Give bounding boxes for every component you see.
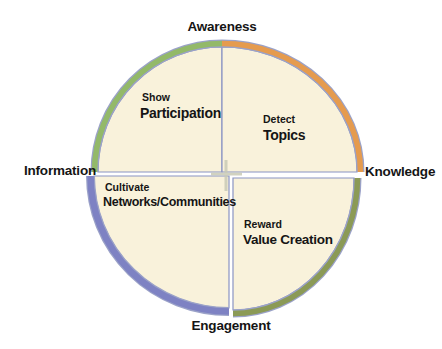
quadrant-top-right-label: Topics: [263, 128, 305, 143]
quadrant-cycle-diagram: Awareness Knowledge Engagement Informati…: [0, 0, 442, 349]
axis-label-knowledge: Knowledge: [365, 165, 435, 180]
quadrant-top-right-wedge: [222, 47, 357, 172]
quadrant-bottom-left-label: Networks/Communities: [103, 196, 236, 210]
quadrant-top-left-label: Participation: [140, 106, 221, 121]
quadrant-bottom-left-action: Cultivate: [105, 182, 149, 194]
quadrant-bottom-right-label: Value Creation: [243, 233, 333, 248]
axis-label-information: Information: [14, 164, 96, 179]
quadrant-top-left-action: Show: [142, 92, 170, 104]
axis-label-engagement: Engagement: [168, 319, 294, 334]
quadrant-bottom-right-action: Reward: [244, 219, 282, 231]
axis-label-awareness: Awareness: [160, 20, 284, 35]
quadrant-top-right-action: Detect: [263, 114, 295, 126]
